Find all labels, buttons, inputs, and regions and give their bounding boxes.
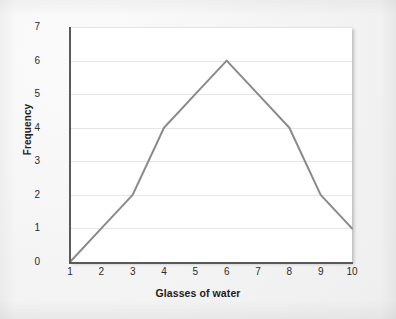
chart-page: 01234567 12345678910 Frequency Glasses o… <box>0 0 396 319</box>
x-tick-label: 10 <box>340 266 364 277</box>
data-series-line <box>70 27 352 262</box>
x-tick-label: 9 <box>309 266 333 277</box>
x-tick-label: 8 <box>277 266 301 277</box>
x-tick-label: 4 <box>152 266 176 277</box>
y-tick-label: 1 <box>16 223 40 233</box>
x-tick-label: 6 <box>215 266 239 277</box>
series-polyline <box>70 61 352 262</box>
y-tick-label: 7 <box>16 22 40 32</box>
y-tick-label: 6 <box>16 56 40 66</box>
x-axis-title: Glasses of water <box>0 287 396 299</box>
plot-area <box>70 27 352 262</box>
y-tick-label: 0 <box>16 257 40 267</box>
x-axis-line <box>69 262 353 264</box>
x-tick-label: 1 <box>58 266 82 277</box>
y-tick-label: 2 <box>16 190 40 200</box>
x-tick-label: 5 <box>183 266 207 277</box>
x-tick-label: 2 <box>89 266 113 277</box>
y-axis-title: Frequency <box>22 85 33 175</box>
y-axis-line <box>69 27 71 263</box>
frequency-polygon-chart: 01234567 12345678910 Frequency Glasses o… <box>0 0 396 319</box>
x-tick-label: 3 <box>121 266 145 277</box>
x-tick-label: 7 <box>246 266 270 277</box>
